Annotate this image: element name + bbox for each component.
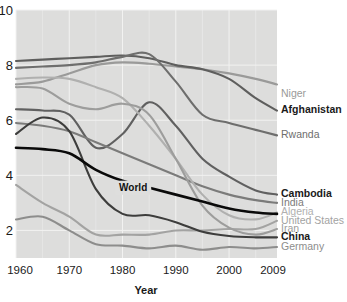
x-tick-label: 1960 (7, 264, 33, 276)
y-tick-label: 8 (6, 58, 13, 73)
fertility-rate-line-chart: World 108642 196019701980199020002009 Ni… (0, 0, 347, 302)
series-label-niger: Niger (281, 87, 307, 99)
annotation-world-label: World (119, 182, 147, 193)
x-tick-label: 1980 (110, 264, 136, 276)
x-tick-label: 2000 (216, 264, 242, 276)
chart-svg: World 108642 196019701980199020002009 Ni… (0, 0, 347, 302)
y-tick-label: 6 (6, 113, 13, 128)
chart-annotations: World (115, 181, 151, 195)
y-tick-label: 4 (6, 168, 13, 183)
y-tick-label: 2 (6, 223, 13, 238)
x-tick-label: 2009 (260, 264, 286, 276)
x-axis-title: Year (134, 284, 158, 296)
series-label-germany: Germany (281, 240, 325, 252)
y-tick-label: 10 (0, 3, 13, 18)
plot-area-background (16, 10, 277, 258)
series-label-afghanistan: Afghanistan (281, 103, 342, 115)
x-tick-label: 1970 (57, 264, 83, 276)
x-tick-label: 1990 (163, 264, 189, 276)
series-label-rwanda: Rwanda (281, 128, 320, 140)
